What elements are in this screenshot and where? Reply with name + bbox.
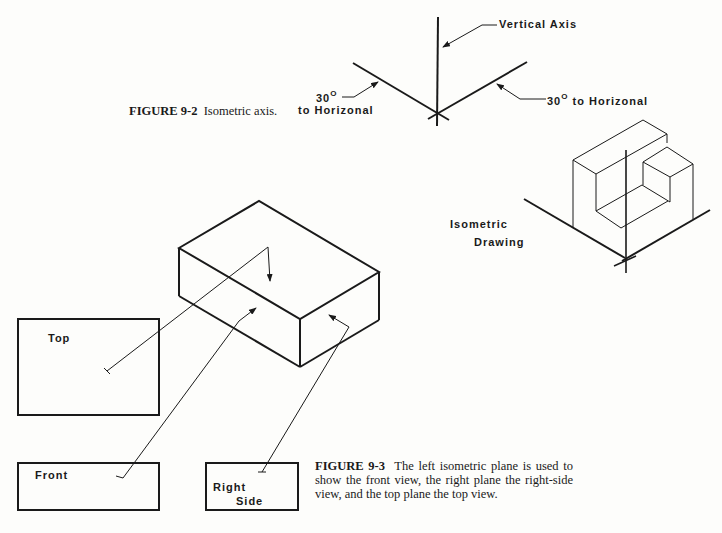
figure-9-3-number: FIGURE 9-3 — [315, 459, 385, 473]
front-view-label: Front — [35, 469, 68, 481]
figure-9-2-number: FIGURE 9-2 — [129, 104, 197, 118]
right-angle-degree: O — [561, 92, 568, 101]
isometric-box — [179, 201, 379, 367]
projection-leaders — [104, 247, 349, 478]
isometric-drawing-object — [524, 120, 710, 273]
isometric-label-line1: Isometric — [450, 218, 508, 230]
left-angle-value: 30 — [316, 92, 330, 104]
top-view-label: Top — [48, 332, 70, 344]
figure-drawings — [0, 0, 722, 533]
left-angle-suffix: to Horizonal — [298, 104, 374, 116]
isometric-label-line2: Drawing — [474, 236, 524, 248]
right-view-label-line2: Side — [236, 495, 263, 507]
textbook-page: Vertical Axis 30O to Horizonal 30O to Ho… — [0, 0, 722, 533]
figure-9-3-caption: FIGURE 9-3 The left isometric plane is u… — [315, 459, 573, 501]
right-angle-value: 30 — [547, 95, 561, 107]
right-angle-label: 30O to Horizonal — [547, 92, 648, 107]
vertical-axis-label: Vertical Axis — [499, 18, 577, 30]
figure-9-2-text: Isometric axis. — [204, 104, 278, 118]
figure-9-2-caption: FIGURE 9-2 Isometric axis. — [129, 104, 277, 118]
right-angle-suffix: to Horizonal — [573, 95, 649, 107]
left-angle-label: 30O — [316, 89, 337, 104]
top-view-box — [18, 319, 159, 415]
left-angle-degree: O — [330, 89, 337, 98]
right-view-label-line1: Right — [213, 481, 246, 493]
